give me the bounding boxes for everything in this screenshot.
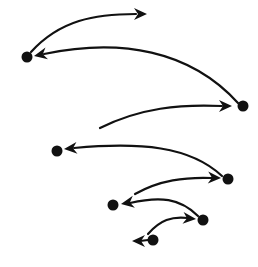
node-n5 [108, 200, 119, 211]
edge-n3-to-n2 [100, 106, 222, 128]
edge-n5-to-n4 [135, 178, 212, 194]
node-n6 [198, 215, 209, 226]
node-n3 [52, 146, 63, 157]
edge-n1-to-out-top [31, 14, 136, 52]
node-n4 [223, 174, 234, 185]
edge-n4-to-n3 [74, 146, 222, 176]
edge-n7-to-n6 [148, 218, 188, 234]
arrowheads-group [33, 8, 232, 247]
node-n7 [148, 235, 159, 246]
edge-n2-to-n1 [44, 47, 238, 103]
node-n1 [22, 52, 33, 63]
edge-n6-to-n5 [130, 199, 198, 216]
node-n2 [238, 101, 249, 112]
spiral-arrow-diagram [0, 0, 258, 267]
edges-group [31, 14, 238, 241]
